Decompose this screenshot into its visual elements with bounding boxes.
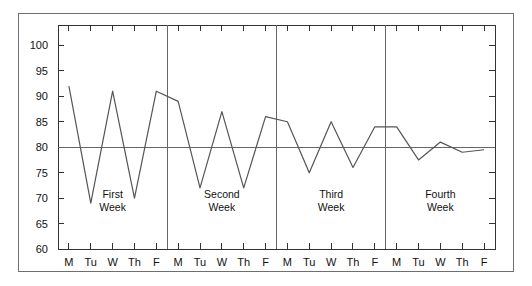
x-tick-label: F [153, 256, 160, 268]
x-tick-label: M [174, 256, 183, 268]
week-label-line1: First [102, 188, 122, 200]
y-tick-label: 100 [30, 39, 48, 51]
x-tick-label: W [326, 256, 337, 268]
y-tick-label: 60 [36, 243, 48, 255]
week-label-line1: Fourth [425, 188, 456, 200]
x-tick-label: W [435, 256, 446, 268]
week-label-line2: Week [99, 201, 126, 213]
chart-figure: 6065707580859095100 MTuWThFMTuWThFMTuWTh… [0, 0, 532, 286]
x-tick-label: Th [237, 256, 250, 268]
week-separators [167, 25, 386, 249]
x-tick-label: M [64, 256, 73, 268]
y-tick-label: 90 [36, 90, 48, 102]
y-tick-label: 95 [36, 65, 48, 77]
week-label-line2: Week [427, 201, 454, 213]
x-tick-label: M [392, 256, 401, 268]
y-tick-label: 75 [36, 167, 48, 179]
x-tick-label: F [481, 256, 488, 268]
x-tick-label: Th [128, 256, 141, 268]
y-tick-label: 80 [36, 141, 48, 153]
x-tick-label: M [283, 256, 292, 268]
week-label-line2: Week [209, 201, 236, 213]
y-tick-label: 65 [36, 218, 48, 230]
x-tick-label: Th [456, 256, 469, 268]
week-label-line1: Third [319, 188, 343, 200]
x-tick-label: Tu [85, 256, 97, 268]
y-tick-label: 85 [36, 116, 48, 128]
week-label-line2: Week [318, 201, 345, 213]
x-tick-label: Th [347, 256, 360, 268]
x-tick-label: F [371, 256, 378, 268]
x-tick-label: Tu [194, 256, 206, 268]
x-tick-label: Tu [303, 256, 315, 268]
x-tick-label: W [217, 256, 228, 268]
x-tick-label: W [107, 256, 118, 268]
week-label-line1: Second [204, 188, 240, 200]
line-chart: 6065707580859095100 MTuWThFMTuWThFMTuWTh… [0, 0, 532, 286]
y-tick-label: 70 [36, 192, 48, 204]
x-tick-label: F [262, 256, 269, 268]
week-annotations: FirstWeekSecondWeekThirdWeekFourthWeek [99, 188, 455, 213]
x-tick-label: Tu [412, 256, 424, 268]
y-axis-tick-labels: 6065707580859095100 [30, 39, 48, 255]
x-axis-tick-labels: MTuWThFMTuWThFMTuWThFMTuWThF [64, 256, 487, 268]
